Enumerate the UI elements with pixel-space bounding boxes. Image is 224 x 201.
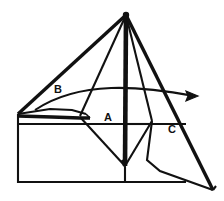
- base-rectangle: [18, 124, 186, 182]
- region-label-b: B: [54, 83, 62, 95]
- ray-center: [125, 15, 126, 166]
- sliver-upper-edge: [18, 109, 86, 114]
- top-sliver-face: [18, 109, 90, 124]
- region-c-boundary: [147, 121, 216, 190]
- figure-canvas: B A C: [0, 0, 224, 201]
- center-notch: [122, 160, 125, 182]
- ray-right: [126, 15, 213, 190]
- region-c-bottom-tip: [213, 186, 216, 190]
- region-label-c: C: [168, 123, 176, 135]
- region-c-left-edge: [147, 121, 213, 190]
- ray-left: [18, 15, 126, 114]
- apex-point: [123, 12, 128, 17]
- ray-c-inner: [126, 15, 152, 121]
- sliver-lower-edge: [18, 116, 90, 118]
- base-rect-left-bottom: [18, 124, 186, 182]
- ray-a-left: [80, 15, 126, 116]
- arrow-head: [186, 91, 198, 101]
- line-diagram-svg: B A C: [0, 0, 224, 201]
- region-label-a: A: [104, 111, 112, 123]
